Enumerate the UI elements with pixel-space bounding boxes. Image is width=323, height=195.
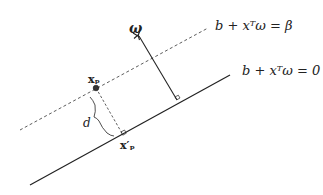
hyperplane-zero-line	[30, 75, 230, 185]
distance-brace-icon	[90, 97, 114, 136]
point-xp	[93, 85, 99, 91]
omega-label: ω	[129, 21, 142, 35]
distance-label: d	[83, 117, 91, 129]
perpendicular-dashed-line	[96, 88, 123, 135]
normal-vector-arrow	[139, 36, 177, 100]
solid-plane-equation: b + xᵀω = 0	[242, 64, 320, 77]
hyperplane-beta-line	[20, 28, 208, 130]
dashed-plane-equation: b + xᵀω = β	[215, 19, 293, 32]
xp-prime-label: x′ₚ	[120, 140, 135, 151]
xp-label: xₚ	[88, 74, 100, 85]
